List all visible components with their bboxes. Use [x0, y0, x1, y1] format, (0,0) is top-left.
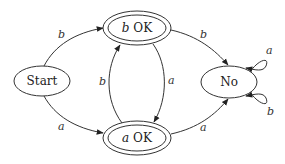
state-b-ok-label: b OK — [122, 21, 153, 35]
edge-label-bok-no: b — [200, 28, 207, 41]
state-start-label: Start — [27, 74, 58, 88]
state-start: Start — [14, 66, 70, 96]
state-a-ok-label: a OK — [122, 131, 153, 145]
state-a-ok: a OK — [103, 121, 171, 155]
edge-label-start-aok: a — [58, 120, 65, 133]
state-diagram: b a b a b a a b Start b OK a OK No — [0, 0, 285, 164]
edge-label-no-a: a — [266, 44, 273, 57]
edge-aok-to-bok — [109, 45, 122, 123]
edge-label-bok-aok: a — [168, 74, 175, 87]
edge-label-aok-bok: b — [99, 75, 106, 88]
edge-no-self-a — [246, 60, 267, 72]
edge-label-no-b: b — [267, 105, 274, 118]
state-no: No — [201, 66, 257, 98]
edge-label-aok-no: a — [200, 121, 207, 134]
edge-start-to-bok — [44, 28, 103, 66]
edge-no-self-b — [246, 92, 267, 104]
edge-bok-to-aok — [153, 44, 164, 122]
edge-label-start-bok: b — [58, 28, 65, 41]
edge-start-to-aok — [44, 96, 103, 133]
state-b-ok: b OK — [103, 11, 171, 45]
state-no-label: No — [220, 75, 238, 89]
